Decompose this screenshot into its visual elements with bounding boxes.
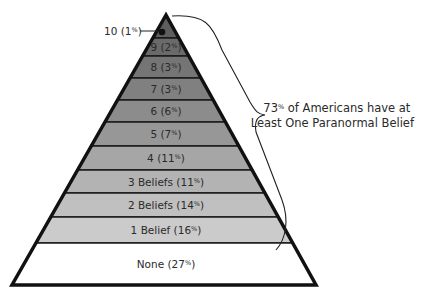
layer-label: 5 (7%): [150, 128, 181, 140]
layer-label: 3 Beliefs (11%): [128, 176, 204, 188]
pyramid-bands: [12, 15, 316, 285]
layer-label: 8 (3%): [150, 61, 181, 73]
layer-label: 7 (3%): [150, 83, 181, 95]
layer-label: 2 Beliefs (14%): [128, 199, 204, 211]
layer-label: 6 (6%): [150, 105, 181, 117]
top-layer-dot: [159, 29, 166, 36]
annotation-text: 73% of Americans have at Least One Paran…: [251, 101, 415, 130]
paranormal-belief-pyramid: 9 (2%)8 (3%)7 (3%)6 (6%)5 (7%)4 (11%)3 B…: [0, 0, 424, 294]
layer-label: 9 (2%): [150, 41, 181, 53]
top-layer-label: 10 (1%): [104, 25, 142, 37]
layer-label: 1 Belief (16%): [131, 224, 202, 236]
